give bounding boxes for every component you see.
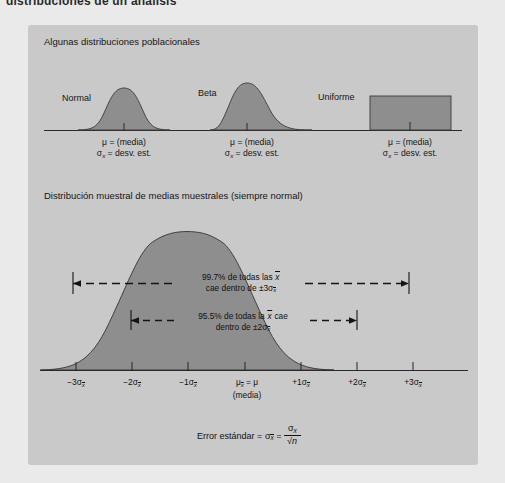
- bottom-section-title: Distribución muestral de medias muestral…: [44, 190, 303, 201]
- normal-params: μ = (media) σx = desv. est.: [97, 137, 151, 161]
- tick-sign: +2: [348, 377, 358, 387]
- ann2-text-post: cae: [272, 311, 288, 321]
- radical-sign: √n: [287, 437, 298, 446]
- mu-symbol: μ: [230, 137, 235, 147]
- tick-sign: −2: [123, 377, 133, 387]
- top-section-title: Algunas distribuciones poblacionales: [44, 36, 200, 47]
- tick-sub: x: [307, 382, 310, 388]
- tick-label-mean-line1: μx = μ: [233, 377, 261, 390]
- sigma-text: = desv. est.: [394, 148, 438, 158]
- sigma-subscript: x: [102, 152, 105, 159]
- uniforme-params: μ = (media) σx = desv. est.: [383, 137, 437, 161]
- tick-label-minus-2-sigma: −2σx: [123, 377, 141, 390]
- sampling-distribution-group: [40, 232, 468, 372]
- standard-error-formula: Error estándar = σx = σx √n: [197, 424, 301, 446]
- xbar-subscript: x: [267, 326, 270, 332]
- sigma-subscript: x: [388, 152, 391, 159]
- tick-label-plus-3-sigma: +3σx: [404, 377, 422, 390]
- sigma-text: = desv. est.: [108, 148, 152, 158]
- tick-sub: x: [363, 382, 366, 388]
- ann1-text: 99.7% de todas las: [202, 272, 275, 282]
- formula-fraction: σx √n: [284, 424, 301, 446]
- annotation-99-7-line2: cae dentro de ±3σx: [202, 283, 280, 296]
- xbar-subscript: x: [273, 287, 276, 293]
- mu-symbol: μ: [388, 137, 393, 147]
- ann1-text2: cae dentro de ±3σ: [206, 283, 273, 293]
- formula-label: Error estándar: [197, 431, 255, 441]
- ann2-text: 95.5% de todas la: [198, 311, 267, 321]
- normal-mu-line: μ = (media): [97, 137, 151, 148]
- mu-text: = (media): [109, 137, 146, 147]
- normal-sigma-line: σx = desv. est.: [97, 148, 151, 161]
- uniforme-sigma-line: σx = desv. est.: [383, 148, 437, 161]
- xbar-symbol: x: [267, 311, 272, 321]
- tick-label-plus-2-sigma: +2σx: [348, 377, 366, 390]
- annotation-99-7: 99.7% de todas las x cae dentro de ±3σx: [202, 272, 280, 296]
- tick-sub: x: [194, 382, 197, 388]
- tick-sub: x: [138, 382, 141, 388]
- formula-sigma-subscript: x: [270, 434, 273, 441]
- annotation-95-5-line1: 95.5% de todas la x cae: [198, 311, 288, 322]
- tick-label-minus-1-sigma: −1σx: [179, 377, 197, 390]
- tick-label-mean: μx = μ (media): [233, 377, 261, 400]
- formula-equals-2: =: [276, 431, 281, 441]
- mu-text: = (media): [237, 137, 274, 147]
- tick-sign: −3: [67, 377, 77, 387]
- beta-params: μ = (media) σx = desv. est.: [225, 137, 279, 161]
- annotation-95-5-line2: dentro de ±2σx: [198, 322, 288, 335]
- dist-label-normal: Normal: [62, 93, 91, 103]
- mu-subscript: x: [241, 382, 244, 388]
- dist-label-beta: Beta: [198, 88, 217, 98]
- tick-sign: −1: [179, 377, 189, 387]
- annotation-95-5: 95.5% de todas la x cae dentro de ±2σx: [198, 311, 288, 335]
- formula-denominator: √n: [284, 436, 301, 446]
- tick-label-mean-line2: (media): [233, 390, 261, 400]
- tick-label-plus-1-sigma: +1σx: [292, 377, 310, 390]
- beta-curve-shape: [210, 83, 312, 130]
- formula-numerator: σx: [284, 424, 301, 436]
- num-subscript: x: [294, 427, 297, 434]
- tick-sub: x: [419, 382, 422, 388]
- tick-label-minus-3-sigma: −3σx: [67, 377, 85, 390]
- sigma-subscript: x: [230, 152, 233, 159]
- mu-equals-mu: = μ: [246, 377, 258, 387]
- mu-symbol: μ: [102, 137, 107, 147]
- ann2-text2: dentro de ±2σ: [216, 322, 268, 332]
- tick-sign: +3: [404, 377, 414, 387]
- dist-label-uniforme: Uniforme: [318, 92, 355, 102]
- xbar-symbol: x: [275, 272, 280, 282]
- sigma-text: = desv. est.: [236, 148, 280, 158]
- mu-text: = (media): [395, 137, 432, 147]
- radicand-n: n: [291, 435, 298, 446]
- tick-sub: x: [82, 382, 85, 388]
- beta-mu-line: μ = (media): [225, 137, 279, 148]
- top-distributions-group: [44, 83, 462, 131]
- sampling-normal-curve: [40, 232, 334, 371]
- beta-sigma-line: σx = desv. est.: [225, 148, 279, 161]
- annotation-99-7-line1: 99.7% de todas las x: [202, 272, 280, 283]
- formula-equals-1: =: [257, 431, 262, 441]
- tick-sign: +1: [292, 377, 302, 387]
- figure-graphics: [0, 0, 505, 483]
- uniforme-mu-line: μ = (media): [383, 137, 437, 148]
